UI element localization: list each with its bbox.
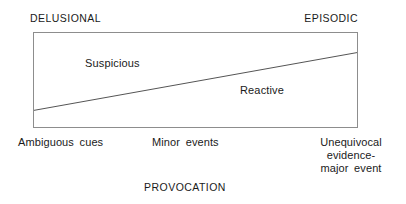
x-axis-tick-line-3: major event bbox=[303, 162, 399, 175]
region-label-reactive: Reactive bbox=[240, 84, 284, 97]
x-axis-tick-minor-events: Minor events bbox=[152, 136, 219, 149]
divider-line bbox=[34, 53, 357, 111]
x-axis-title: PROVOCATION bbox=[144, 181, 226, 193]
x-axis-tick-line-2: evidence- bbox=[303, 149, 399, 162]
x-axis-tick-ambiguous-cues: Ambiguous cues bbox=[18, 136, 103, 149]
axis-pole-label-right: EPISODIC bbox=[304, 12, 358, 24]
x-axis-tick-line-1: Unequivocal bbox=[303, 136, 399, 149]
region-label-suspicious: Suspicious bbox=[85, 57, 140, 70]
divider-line-svg bbox=[34, 33, 357, 127]
diagram-canvas: DELUSIONAL EPISODIC Suspicious Reactive … bbox=[0, 0, 406, 204]
plot-frame bbox=[33, 32, 358, 128]
axis-pole-label-left: DELUSIONAL bbox=[30, 12, 101, 24]
x-axis-tick-unequivocal-evidence: Unequivocal evidence- major event bbox=[303, 136, 399, 175]
